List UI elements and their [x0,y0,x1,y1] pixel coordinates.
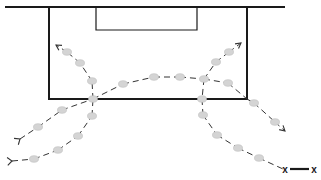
ball-icon [224,80,233,87]
ball-icon [76,60,85,67]
penalty-box [49,7,247,99]
path-right-run-up [204,43,241,79]
path-segment [62,99,93,110]
ball-icon [225,49,234,56]
arrow-head-icon [56,45,62,50]
ball-icon [119,81,128,88]
arrow-head-icon [279,125,285,131]
ball-icon [74,133,83,140]
ball-icon [88,78,97,85]
ball-icon [213,132,222,139]
run-start-icon [7,158,12,166]
cone-markers: xx [282,164,317,175]
ball-icon [234,145,243,152]
diagram-canvas: xx [0,0,321,180]
path-segment [38,110,62,127]
goal-area [96,7,197,30]
ball-icon [199,112,208,119]
ball-icon [212,59,221,66]
ball-icon [198,96,207,103]
run-start-icon [14,138,20,144]
ball-icon [88,113,97,120]
ball-markers [30,49,280,163]
ball-icon [34,124,43,131]
path-center-curve [93,77,204,99]
ball-icon [150,74,159,81]
drill-diagram: xx [0,0,321,180]
field-lines [5,7,285,99]
ball-icon [89,96,98,103]
path-segment [123,77,154,84]
path-segment [254,103,275,122]
path-left-run-up [56,45,93,99]
ball-icon [271,119,280,126]
ball-icon [58,107,67,114]
ball-icon [54,147,63,154]
ball-icon [255,155,264,162]
ball-icon [30,156,39,163]
x-marker-icon: x [282,164,288,175]
x-marker-icon: x [311,164,317,175]
ball-icon [176,74,185,81]
path-left-lower-2 [7,99,93,165]
path-segment [93,84,123,99]
ball-icon [63,49,72,56]
ball-icon [250,100,259,107]
ball-icon [200,76,209,83]
